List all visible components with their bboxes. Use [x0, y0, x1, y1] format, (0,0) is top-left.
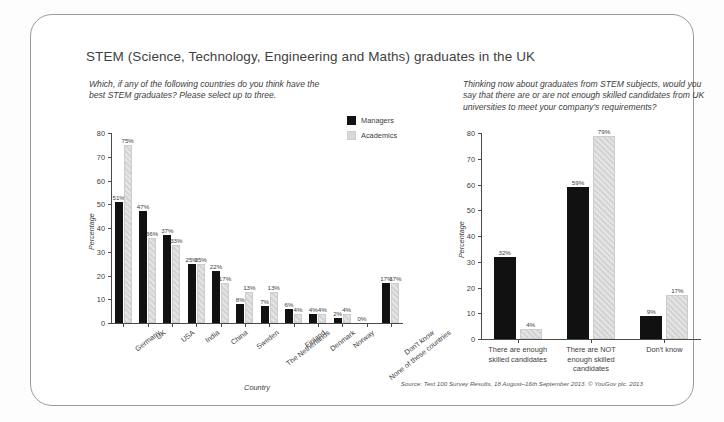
bar-managers [163, 235, 171, 323]
bar-value-label: 33% [170, 237, 182, 244]
y-axis-tick-mark [108, 133, 111, 134]
bar-academics [391, 283, 399, 323]
legend-item-managers: Managers [347, 114, 397, 126]
bar-academics [270, 292, 278, 323]
bar-value-label: 17% [671, 287, 683, 294]
bar-academics [148, 238, 156, 324]
chart-skilled-candidates: 01020304050607080Percentage32%4%There ar… [451, 133, 701, 383]
bar-academics [221, 283, 229, 323]
x-axis-category-label: China [228, 328, 248, 347]
bar-managers [285, 309, 293, 323]
bar-managers [382, 283, 390, 323]
bar-value-label: 9% [647, 308, 656, 315]
y-axis-tick-label: 40 [467, 232, 475, 241]
bar-academics [124, 145, 132, 323]
bar-value-label: 8% [236, 296, 245, 303]
x-axis-category-label: There are NOT enough skilled candidates [554, 345, 627, 374]
y-axis-tick-mark [478, 339, 481, 340]
y-axis-tick-label: 40 [97, 224, 105, 233]
y-axis-tick-mark [108, 157, 111, 158]
bar-value-label: 22% [210, 263, 222, 270]
bar-managers [261, 306, 269, 323]
x-axis-category-label: Norway [351, 328, 376, 350]
x-axis-tick-mark [269, 324, 270, 327]
x-axis-line [111, 323, 403, 324]
chart-countries: 01020304050607080Percentage51%75%Germany… [83, 133, 403, 393]
y-axis-tick-mark [108, 276, 111, 277]
bar-managers [640, 316, 662, 339]
y-axis-tick-mark [478, 133, 481, 134]
bar-managers [139, 211, 147, 323]
bar-managers [236, 304, 244, 323]
screenshot-root: STEM (Science, Technology, Engineering a… [0, 0, 724, 422]
bar-value-label: 13% [243, 284, 255, 291]
x-axis-tick-mark [391, 324, 392, 327]
y-axis-tick-mark [108, 181, 111, 182]
y-axis-tick-label: 50 [97, 200, 105, 209]
bar-managers [567, 187, 589, 339]
x-axis-tick-mark [221, 324, 222, 327]
x-axis-category-label: India [203, 328, 221, 345]
bar-value-label: 17% [219, 275, 231, 282]
x-axis-title: Country [111, 383, 403, 392]
bar-academics [520, 329, 542, 339]
x-axis-tick-mark [664, 340, 665, 343]
y-axis-tick-label: 30 [467, 257, 475, 266]
bar-value-label: 4% [294, 306, 303, 313]
y-axis-tick-label: 10 [97, 295, 105, 304]
y-axis-tick-label: 60 [97, 176, 105, 185]
y-axis-tick-label: 10 [467, 309, 475, 318]
bar-value-label: 0% [358, 315, 367, 322]
y-axis-tick-mark [478, 159, 481, 160]
bar-value-label: 59% [572, 179, 584, 186]
bar-academics [318, 314, 326, 324]
x-axis-tick-mark [123, 324, 124, 327]
bar-academics [666, 295, 688, 339]
bar-value-label: 37% [161, 227, 173, 234]
bar-value-label: 32% [498, 249, 510, 256]
y-axis-tick-label: 30 [97, 247, 105, 256]
y-axis-line [111, 133, 112, 323]
y-axis-tick-label: 80 [467, 129, 475, 138]
y-axis-tick-label: 20 [467, 283, 475, 292]
bar-managers [334, 318, 342, 323]
x-axis-category-label: Sweden [254, 328, 280, 351]
bar-academics [294, 314, 302, 324]
bar-value-label: 36% [146, 230, 158, 237]
bar-value-label: 13% [267, 284, 279, 291]
x-axis-tick-mark [245, 324, 246, 327]
bar-academics [197, 264, 205, 323]
x-axis-tick-mark [294, 324, 295, 327]
bar-value-label: 4% [526, 321, 535, 328]
y-axis-tick-mark [108, 252, 111, 253]
x-axis-tick-mark [367, 324, 368, 327]
x-axis-tick-mark [196, 324, 197, 327]
legend-swatch-managers [347, 116, 356, 125]
bar-value-label: 17% [389, 275, 401, 282]
bar-value-label: 25% [194, 256, 206, 263]
bar-managers [309, 314, 317, 324]
y-axis-tick-label: 50 [467, 206, 475, 215]
y-axis-tick-mark [478, 313, 481, 314]
y-axis-tick-mark [478, 288, 481, 289]
x-axis-category-label: USA [179, 328, 196, 344]
bar-value-label: 4% [318, 306, 327, 313]
bar-academics [343, 314, 351, 324]
x-axis-tick-mark [172, 324, 173, 327]
bar-value-label: 47% [137, 203, 149, 210]
bar-value-label: 4% [342, 306, 351, 313]
y-axis-line [481, 133, 482, 339]
y-axis-tick-mark [108, 204, 111, 205]
bar-value-label: 7% [260, 298, 269, 305]
y-axis-tick-label: 70 [467, 154, 475, 163]
x-axis-tick-mark [342, 324, 343, 327]
bar-academics [245, 292, 253, 323]
page-title: STEM (Science, Technology, Engineering a… [86, 49, 535, 64]
y-axis-tick-mark [478, 210, 481, 211]
y-axis-tick-mark [108, 299, 111, 300]
report-card: STEM (Science, Technology, Engineering a… [30, 14, 694, 406]
y-axis-tick-mark [108, 323, 111, 324]
bar-value-label: 4% [309, 306, 318, 313]
y-axis-tick-mark [478, 185, 481, 186]
x-axis-tick-mark [518, 340, 519, 343]
